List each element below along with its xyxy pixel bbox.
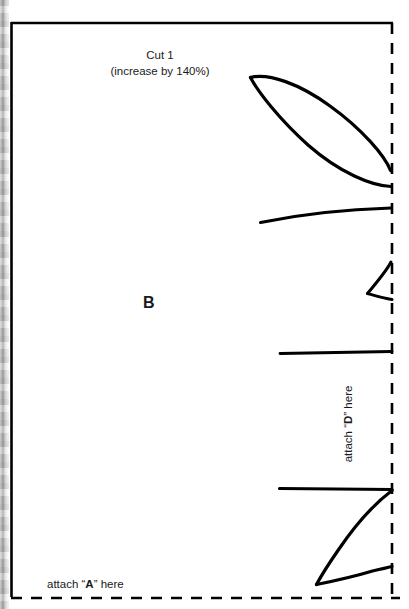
attach-d-suffix: ” here [342,386,354,416]
attach-a-suffix: ” here [94,578,124,590]
attach-d-prefix: attach “ [342,424,354,462]
wedge-notch [368,262,393,300]
horizontal-rule [280,352,392,354]
fin-top-edge [280,489,393,490]
attach-d-letter: D [342,416,354,424]
pattern-drawing [0,0,409,609]
upper-arc [261,208,392,223]
leaf-outline [251,76,392,186]
attach-a-label: attach “A” here [47,578,124,590]
sheet-frame [11,22,400,599]
horizontal-rule-line [280,352,392,354]
attach-a-letter: A [85,578,93,590]
fin-shape [280,489,393,585]
cut-title-block: Cut 1 (increase by 140%) [0,47,320,79]
upper-arc-curve [261,208,392,223]
pattern-sheet: Cut 1 (increase by 140%) B attach “A” he… [0,0,409,609]
attach-a-prefix: attach “ [47,578,85,590]
leaf-lower-curve [251,78,392,187]
wedge-lower-stroke [368,294,393,300]
cut-subtitle: (increase by 140%) [0,63,320,79]
piece-letter-b: B [143,294,155,312]
fin-bottom-curve [317,567,393,585]
cut-title: Cut 1 [0,47,320,63]
wedge-upper-stroke [368,262,392,294]
attach-d-label: attach “D” here [342,386,354,463]
